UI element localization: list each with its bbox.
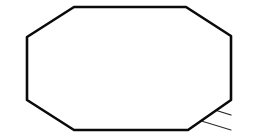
octagon-boundary: [27, 7, 231, 130]
figure-container: [0, 0, 260, 138]
technical-drawing: [0, 0, 260, 138]
